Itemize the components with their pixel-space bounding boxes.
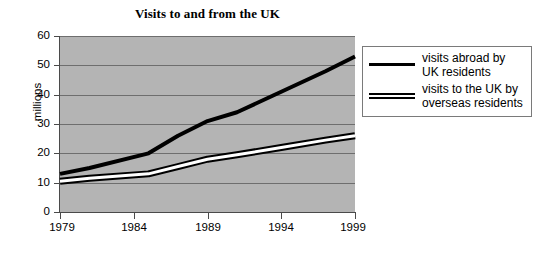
x-axis-tick <box>134 213 135 219</box>
legend-entry-overseas-residents: visits to the UK by overseas residents <box>369 83 525 110</box>
chart-title: Visits to and from the UK <box>60 6 355 22</box>
legend: visits abroad by UK residents visits to … <box>362 46 532 117</box>
x-axis-tick-label: 1989 <box>178 222 238 234</box>
legend-label-line-1: visits to the UK by <box>422 83 523 97</box>
x-axis-tick-label: 1994 <box>251 222 311 234</box>
y-axis-tick-label: 10 <box>14 177 50 189</box>
legend-label-line-2: overseas residents <box>422 97 523 111</box>
x-axis-tick-label: 1999 <box>323 222 383 234</box>
x-axis-tick <box>208 213 209 219</box>
y-axis-tick-label: 60 <box>14 30 50 42</box>
x-axis-tick-label: 1984 <box>104 222 164 234</box>
y-axis-tick-label: 40 <box>14 89 50 101</box>
legend-label-overseas-residents: visits to the UK by overseas residents <box>422 83 523 110</box>
legend-label-line-2: UK residents <box>422 66 505 80</box>
chart-figure: Visits to and from the UK millions 60 50… <box>0 0 540 261</box>
x-axis-tick <box>281 213 282 219</box>
legend-label-uk-residents: visits abroad by UK residents <box>422 52 505 79</box>
legend-label-line-1: visits abroad by <box>422 52 505 66</box>
legend-swatch-double-line-icon <box>369 83 415 109</box>
y-axis-tick-label: 50 <box>14 59 50 71</box>
x-axis-tick <box>60 213 61 219</box>
y-axis-tick-label: 20 <box>14 147 50 159</box>
x-axis-tick <box>355 213 356 219</box>
x-axis-tick-label: 1979 <box>32 222 92 234</box>
y-axis-tick-label: 0 <box>14 206 50 218</box>
legend-entry-uk-residents: visits abroad by UK residents <box>369 52 525 79</box>
legend-swatch-single-line-icon <box>369 52 415 78</box>
series-layer <box>60 36 355 212</box>
y-axis-tick-label: 30 <box>14 118 50 130</box>
